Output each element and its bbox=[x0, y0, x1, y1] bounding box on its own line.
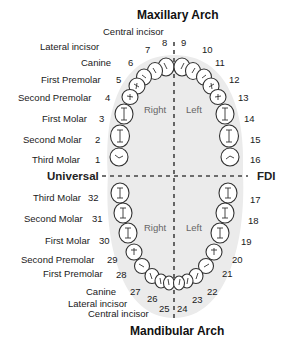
tooth-number-25: 25 bbox=[159, 303, 170, 314]
lower-left-side-label: Left bbox=[186, 222, 202, 233]
tooth-number-31: 31 bbox=[92, 213, 103, 224]
maxillary-arch-title: Maxillary Arch bbox=[137, 8, 219, 22]
tooth-number-21: 21 bbox=[222, 268, 233, 279]
tooth-number-32: 32 bbox=[88, 192, 99, 203]
tooth-number-27: 27 bbox=[130, 286, 141, 297]
tooth-number-3: 3 bbox=[99, 113, 104, 124]
tooth-number-15: 15 bbox=[250, 134, 261, 145]
upper-left-side-label: Left bbox=[186, 104, 202, 115]
label-upper-canine: Canine bbox=[81, 57, 111, 68]
label-upper-lateral-incisor: Lateral incisor bbox=[40, 41, 99, 52]
tooth-number-18: 18 bbox=[248, 215, 259, 226]
mandibular-arch-title: Mandibular Arch bbox=[130, 324, 224, 338]
tooth-number-14: 14 bbox=[244, 113, 255, 124]
tooth-number-17: 17 bbox=[250, 194, 261, 205]
tooth-number-2: 2 bbox=[95, 134, 100, 145]
tooth-number-28: 28 bbox=[116, 269, 127, 280]
fdi-system-label: FDI bbox=[257, 170, 276, 182]
tooth-number-26: 26 bbox=[147, 293, 158, 304]
universal-system-label: Universal bbox=[47, 170, 99, 182]
tooth-numbering-diagram: Maxillary Arch Mandibular Arch Universal… bbox=[0, 0, 288, 343]
tooth-number-6: 6 bbox=[128, 57, 133, 68]
label-lower-first-premolar: First Premolar bbox=[43, 268, 103, 279]
label-lower-second-premolar: Second Premolar bbox=[21, 254, 94, 265]
tooth-number-30: 30 bbox=[99, 235, 110, 246]
tooth-number-29: 29 bbox=[107, 254, 118, 265]
label-lower-canine: Canine bbox=[86, 286, 116, 297]
tooth-number-24: 24 bbox=[177, 303, 188, 314]
label-upper-second-premolar: Second Premolar bbox=[18, 92, 91, 103]
lower-right-side-label: Right bbox=[144, 222, 166, 233]
upper-right-side-label: Right bbox=[144, 104, 166, 115]
tooth-number-20: 20 bbox=[232, 254, 243, 265]
tooth-number-5: 5 bbox=[116, 74, 121, 85]
tooth-number-4: 4 bbox=[105, 92, 110, 103]
tooth-number-11: 11 bbox=[215, 57, 225, 68]
label-lower-third-molar: Third Molar bbox=[33, 192, 81, 203]
tooth-number-8: 8 bbox=[162, 37, 167, 48]
tooth-number-10: 10 bbox=[202, 44, 213, 55]
label-upper-third-molar: Third Molar bbox=[32, 154, 80, 165]
label-upper-second-molar: Second Molar bbox=[23, 134, 82, 145]
label-lower-central-incisor: Central incisor bbox=[88, 308, 149, 319]
label-lower-second-molar: Second Molar bbox=[24, 213, 83, 224]
tooth-number-13: 13 bbox=[238, 92, 249, 103]
tooth-number-19: 19 bbox=[241, 236, 252, 247]
tooth-number-7: 7 bbox=[145, 44, 150, 55]
tooth-number-1: 1 bbox=[95, 154, 100, 165]
label-lower-first-molar: First Molar bbox=[45, 235, 90, 246]
tooth-number-12: 12 bbox=[229, 74, 240, 85]
label-upper-central-incisor: Central incisor bbox=[103, 26, 164, 37]
tooth-number-22: 22 bbox=[207, 286, 218, 297]
label-upper-first-molar: First Molar bbox=[42, 113, 87, 124]
label-upper-first-premolar: First Premolar bbox=[41, 74, 101, 85]
tooth-number-23: 23 bbox=[192, 294, 203, 305]
tooth-number-9: 9 bbox=[181, 37, 186, 48]
tooth-number-16: 16 bbox=[250, 154, 261, 165]
